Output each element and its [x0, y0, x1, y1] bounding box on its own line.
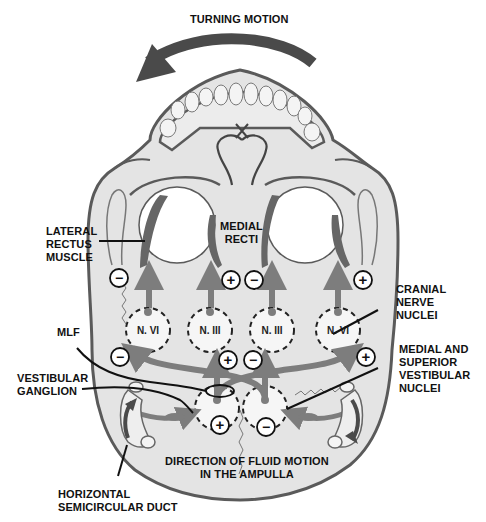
- label-mlf: MLF: [57, 326, 80, 339]
- svg-text:−: −: [249, 352, 257, 368]
- svg-text:−: −: [262, 419, 270, 435]
- svg-text:+: +: [362, 348, 371, 365]
- nucleus-right-n3: N. III: [250, 308, 294, 352]
- svg-text:+: +: [216, 416, 225, 433]
- minus-sign-icon: −: [110, 269, 128, 287]
- nucleus-left-n6: N. VI: [126, 308, 170, 352]
- svg-text:N. VI: N. VI: [137, 325, 159, 336]
- svg-text:−: −: [116, 349, 124, 365]
- label-fluid-motion: DIRECTION OF FLUID MOTION IN THE AMPULLA: [165, 455, 329, 481]
- nucleus-left-n3: N. III: [188, 308, 232, 352]
- plus-sign-icon: +: [211, 416, 229, 434]
- label-lateral-rectus-muscle: LATERAL RECTUS MUSCLE: [46, 225, 97, 264]
- minus-sign-icon: −: [245, 271, 263, 289]
- nucleus-right-n6: N. VI: [316, 308, 360, 352]
- label-cranial-nerve-nuclei: CRANIAL NERVE NUCLEI: [396, 283, 446, 322]
- plus-sign-icon: +: [222, 271, 240, 289]
- plus-sign-icon: +: [354, 271, 372, 289]
- plus-sign-icon: +: [219, 351, 237, 369]
- label-medial-recti: MEDIAL RECTI: [220, 220, 263, 246]
- minus-sign-icon: −: [111, 348, 129, 366]
- minus-sign-icon: −: [257, 418, 275, 436]
- minus-sign-icon: −: [244, 351, 262, 369]
- svg-text:−: −: [250, 272, 258, 288]
- svg-text:+: +: [359, 271, 368, 288]
- svg-text:N. III: N. III: [199, 325, 220, 336]
- label-semicircular-duct: HORIZONTAL SEMICIRCULAR DUCT: [58, 488, 178, 514]
- svg-text:N. III: N. III: [261, 325, 282, 336]
- svg-text:+: +: [227, 271, 236, 288]
- svg-text:−: −: [115, 270, 123, 286]
- svg-text:+: +: [224, 351, 233, 368]
- label-vestibular-ganglion: VESTIBULAR GANGLION: [17, 372, 88, 398]
- label-medial-superior-vestibular-nuclei: MEDIAL AND SUPERIOR VESTIBULAR NUCLEI: [399, 343, 470, 395]
- title-turning-motion: TURNING MOTION: [190, 13, 289, 26]
- plus-sign-icon: +: [357, 348, 375, 366]
